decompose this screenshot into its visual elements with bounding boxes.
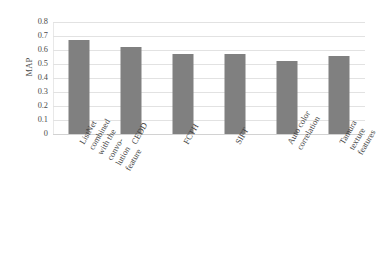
y-axis-tick-label: 0.6	[22, 46, 48, 54]
bar[interactable]	[121, 47, 142, 134]
bar-slot	[209, 22, 261, 134]
bar[interactable]	[225, 54, 246, 135]
y-axis-tick-label: 0.7	[22, 32, 48, 40]
bar-slot	[157, 22, 209, 134]
x-label-slot: SIFT	[209, 137, 261, 257]
bar-slot	[105, 22, 157, 134]
x-label-slot: ListNet combined with the convo- lution …	[53, 137, 105, 257]
y-axis-tick-labels: 0.80.70.60.50.40.30.20.10	[22, 22, 48, 134]
y-axis-tick-label: 0.1	[22, 116, 48, 124]
x-label-slot: FCTH	[157, 137, 209, 257]
y-axis-tick-label: 0.3	[22, 88, 48, 96]
x-axis-category-labels: ListNet combined with the convo- lution …	[53, 137, 365, 257]
y-axis-tick-label: 0.8	[22, 18, 48, 26]
y-axis-tick-label: 0.2	[22, 102, 48, 110]
y-axis-tick-label: 0.4	[22, 74, 48, 82]
y-axis-tick-label: 0.5	[22, 60, 48, 68]
bar[interactable]	[69, 40, 90, 134]
x-label-slot: CEDD	[105, 137, 157, 257]
bar-slot	[313, 22, 365, 134]
x-label-slot: Auto color correlation	[261, 137, 313, 257]
y-axis-tick-label: 0	[22, 130, 48, 138]
bar[interactable]	[173, 54, 194, 134]
x-label-slot: Tamura texture features	[313, 137, 365, 257]
